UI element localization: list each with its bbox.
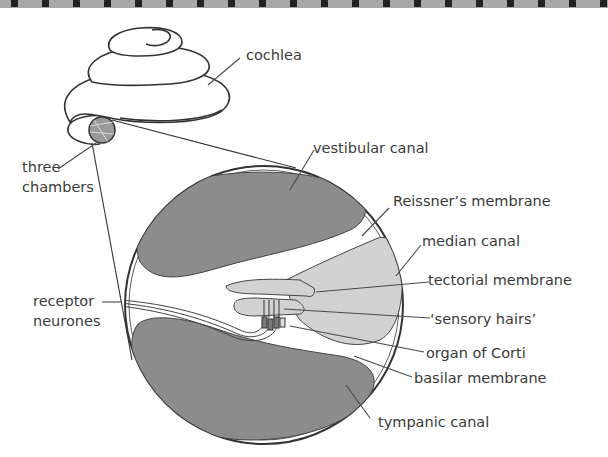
label-reissners-membrane: Reissner’s membrane	[393, 193, 551, 209]
label-three-chambers-1: three	[22, 159, 60, 175]
big-cross-section	[120, 166, 403, 444]
label-basilar-membrane: basilar membrane	[414, 370, 547, 386]
small-cross-section	[89, 117, 115, 143]
label-median-canal: median canal	[422, 233, 520, 249]
cochlea-diagram: cochlea three chambers vestibular canal …	[0, 0, 608, 457]
projection-line-top	[112, 120, 296, 168]
label-organ-of-corti: organ of Corti	[426, 345, 526, 361]
label-receptor-neurones-1: receptor	[33, 293, 94, 309]
label-vestibular-canal: vestibular canal	[313, 140, 429, 156]
label-sensory-hairs: ‘sensory hairs’	[430, 311, 536, 327]
label-receptor-neurones-2: neurones	[33, 313, 100, 329]
label-tectorial-membrane: tectorial membrane	[428, 272, 572, 288]
top-border	[0, 0, 608, 8]
label-tympanic-canal: tympanic canal	[378, 414, 489, 430]
label-cochlea: cochlea	[246, 47, 302, 63]
label-three-chambers-2: chambers	[22, 179, 94, 195]
